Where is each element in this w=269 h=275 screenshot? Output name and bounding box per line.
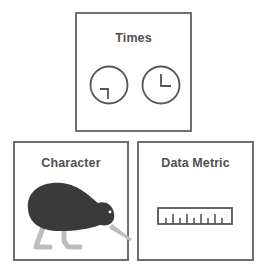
clock-icon [89, 65, 129, 105]
ruler-icon [157, 207, 233, 225]
data-metric-card-title: Data Metric [139, 156, 252, 170]
clock-icon [141, 65, 181, 105]
kiwi-bird-icon [20, 181, 130, 251]
data-metric-card[interactable]: Data Metric [137, 141, 254, 261]
times-card-title: Times [77, 31, 190, 45]
times-card[interactable]: Times [75, 12, 192, 132]
character-card-title: Character [15, 156, 127, 170]
character-card[interactable]: Character [13, 141, 129, 261]
